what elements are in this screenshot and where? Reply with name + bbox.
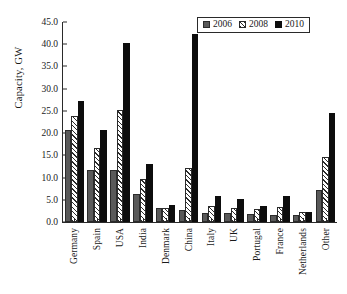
bar-group: UK (223, 22, 246, 222)
x-axis-tick-label: Denmark (161, 228, 171, 264)
y-axis-tick-label: 35.0 (41, 61, 63, 71)
x-axis-tick-mark (74, 218, 75, 222)
y-axis-label: Capacity, GW (13, 18, 24, 138)
x-axis-tick-label: China (184, 228, 194, 251)
x-axis-tick-mark (166, 218, 167, 222)
x-axis-tick-mark (326, 218, 327, 222)
bar-france-2010 (283, 196, 290, 222)
bar-group: Denmark (154, 22, 177, 222)
x-axis-tick-label: Other (321, 228, 331, 250)
x-axis-tick-label: Netherlands (298, 228, 308, 275)
bar-chart: Capacity, GW 2006 2008 2010 0.05.010.015… (0, 0, 347, 294)
bar-usa-2010 (123, 43, 130, 222)
x-axis-tick-mark (257, 218, 258, 222)
y-axis-tick-label: 0.0 (46, 217, 63, 227)
x-axis-tick-mark (120, 218, 121, 222)
bar-uk-2010 (237, 199, 244, 222)
bar-group: Spain (86, 22, 109, 222)
x-axis-tick-label: Germany (69, 228, 79, 264)
bar-india-2010 (146, 164, 153, 222)
y-axis-tick-label: 10.0 (41, 173, 63, 183)
bar-group: India (131, 22, 154, 222)
x-axis-tick-label: USA (115, 228, 125, 247)
bar-spain-2010 (100, 130, 107, 222)
bar-groups: GermanySpainUSAIndiaDenmarkChinaItalyUKP… (63, 22, 337, 222)
bar-china-2010 (192, 34, 199, 222)
y-axis-tick-label: 15.0 (41, 150, 63, 160)
x-axis-tick-label: Portugal (252, 228, 262, 261)
bar-group: USA (109, 22, 132, 222)
x-axis-tick-mark (303, 218, 304, 222)
bar-group: Germany (63, 22, 86, 222)
x-axis-tick-mark (211, 218, 212, 222)
bar-other-2010 (329, 113, 336, 222)
x-axis-tick-mark (189, 218, 190, 222)
x-axis-tick-mark (234, 218, 235, 222)
bar-group: Portugal (246, 22, 269, 222)
x-axis-tick-mark (97, 218, 98, 222)
bar-group: China (177, 22, 200, 222)
plot-area: 0.05.010.015.020.025.030.035.040.045.0 G… (62, 22, 337, 223)
x-axis-tick-mark (143, 218, 144, 222)
bar-italy-2010 (215, 196, 222, 222)
bar-portugal-2010 (260, 206, 267, 222)
bar-group: Netherlands (291, 22, 314, 222)
bar-germany-2010 (78, 101, 85, 222)
x-axis-tick-label: Italy (206, 228, 216, 246)
x-axis-tick-label: UK (229, 228, 239, 242)
x-axis-tick-label: India (138, 228, 148, 248)
y-axis-tick-label: 30.0 (41, 84, 63, 94)
x-axis-tick-label: Spain (92, 228, 102, 250)
y-axis-tick-label: 40.0 (41, 39, 63, 49)
bar-denmark-2010 (169, 205, 176, 222)
x-axis-tick-mark (280, 218, 281, 222)
bar-netherlands-2010 (306, 212, 313, 222)
y-axis-tick-label: 20.0 (41, 128, 63, 138)
y-axis-tick-label: 25.0 (41, 106, 63, 116)
x-axis-tick-label: France (275, 228, 285, 254)
bar-group: Other (314, 22, 337, 222)
bar-group: Italy (200, 22, 223, 222)
y-axis-tick-label: 45.0 (41, 17, 63, 27)
y-axis-tick-label: 5.0 (46, 195, 63, 205)
bar-group: France (268, 22, 291, 222)
